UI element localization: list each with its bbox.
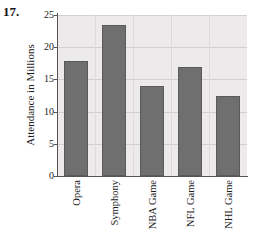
problem-number: 17. [3, 4, 19, 20]
y-tick-label-0: 0 [38, 171, 54, 181]
bar-symphony [102, 25, 126, 176]
gridline-x-2 [133, 15, 134, 176]
bar-nfl-game [178, 67, 202, 176]
y-tick-mark-20 [54, 47, 57, 48]
y-tick-label-25: 25 [38, 10, 54, 20]
y-tick-mark-25 [54, 15, 57, 16]
gridline-x-3 [171, 15, 172, 176]
y-tick-mark-10 [54, 112, 57, 113]
y-tick-mark-0 [54, 176, 57, 177]
x-tick-label: Opera [71, 180, 82, 206]
gridline-y-25 [57, 15, 247, 16]
x-tick-nhl-game: NHL Game [221, 180, 235, 236]
gridline-x-1 [95, 15, 96, 176]
x-tick-label: NFL Game [185, 180, 196, 227]
y-axis-ticks: 0510152025 [36, 0, 54, 239]
x-tick-nfl-game: NFL Game [183, 180, 197, 236]
gridline-y-20 [57, 47, 247, 48]
bar-opera [64, 61, 88, 176]
y-tick-mark-5 [54, 144, 57, 145]
bar-nhl-game [216, 96, 240, 176]
gridline-x-4 [209, 15, 210, 176]
x-tick-opera: Opera [69, 180, 83, 236]
x-tick-symphony: Symphony [107, 180, 121, 236]
x-tick-label: NBA Game [147, 180, 158, 229]
x-axis-line [57, 176, 248, 177]
y-axis-title-label: Attendance in Millions [24, 44, 36, 145]
plot-area [57, 15, 247, 176]
y-tick-label-10: 10 [38, 107, 54, 117]
x-tick-nba-game: NBA Game [145, 180, 159, 236]
y-tick-label-15: 15 [38, 74, 54, 84]
x-tick-label: Symphony [109, 180, 120, 226]
x-tick-label: NHL Game [223, 180, 234, 229]
y-tick-mark-15 [54, 79, 57, 80]
bar-nba-game [140, 86, 164, 176]
y-axis-line [57, 13, 58, 177]
y-tick-label-20: 20 [38, 42, 54, 52]
y-tick-label-5: 5 [38, 139, 54, 149]
bar-chart-figure: 17. Attendance in Millions 0510152025 Op… [0, 0, 253, 239]
